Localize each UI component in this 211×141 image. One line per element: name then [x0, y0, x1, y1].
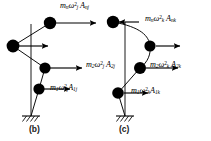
panel-caption-c: (c): [119, 124, 129, 134]
mass-node-n-lower-b: [7, 40, 20, 53]
force-label-A-sub-b-2: 2j: [111, 63, 115, 69]
mass-node-1-b: [33, 83, 44, 94]
force-label-omega-sub-b-n: j: [77, 4, 78, 10]
force-label-A-sub-b-1: 1j: [73, 86, 77, 92]
panel-b-group: [7, 17, 96, 122]
force-label-A-sub-c-n: nk: [171, 17, 176, 23]
force-label-omega-sub-c-n: k: [162, 17, 164, 23]
force-label-mass-n-c: mnω2k Ank: [145, 15, 176, 24]
force-label-omega-sub-b-2: j: [103, 63, 104, 69]
force-label-mass-1-b: m1ω2jA1j: [50, 84, 77, 93]
force-label-A-sub-c-2: 2k: [176, 63, 181, 69]
force-label-mass-1-c: m1ω2kA1k: [131, 87, 160, 96]
mass-node-n-b: [44, 17, 56, 29]
force-label-mass-2-b: m2ω2j A2j: [86, 61, 115, 70]
ground-support-c: [116, 116, 134, 122]
force-label-omega-sub-c-2: k: [167, 63, 169, 69]
mass-node-1-c: [112, 87, 124, 99]
force-label-mass-n-b: mnω2j Anj: [60, 2, 89, 11]
force-label-mass-2-c: m2ω2k A2k: [150, 61, 181, 70]
force-label-A-sub-b-n: nj: [85, 4, 89, 10]
mass-node-2-c: [134, 62, 146, 74]
mass-node-mid-c: [144, 40, 155, 51]
force-label-A-sub-c-1: 1k: [155, 89, 160, 95]
mass-node-n-c: [107, 16, 119, 28]
ground-support-b: [22, 116, 40, 122]
panel-caption-b: (b): [29, 124, 40, 134]
figure-root: mnω2j Anj m2ω2j A2j m1ω2jA1j mnω2k Ank m…: [0, 0, 211, 141]
mass-node-2-b: [39, 62, 50, 73]
figure-canvas: [0, 0, 211, 141]
